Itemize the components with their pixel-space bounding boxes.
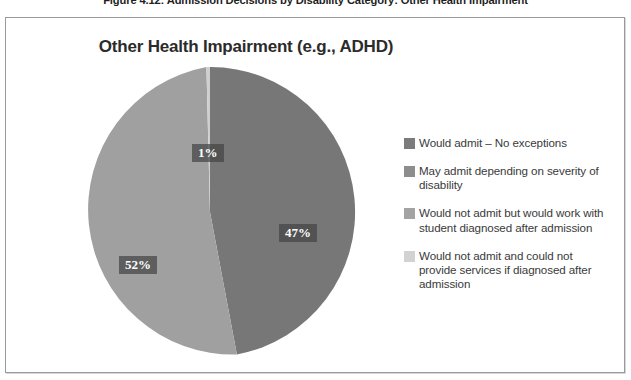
legend-item-may-admit-depending-on-severity[interactable]: May admit depending on severity of disab…: [404, 164, 609, 192]
legend-item-label: Would not admit and could not provide se…: [419, 249, 609, 291]
pie-data-label-1: 1%: [192, 144, 224, 162]
legend-swatch-icon: [404, 138, 415, 149]
legend-item-would-not-admit-and-could-not-provide[interactable]: Would not admit and could not provide se…: [404, 249, 609, 291]
pie-data-label-47: 47%: [279, 224, 317, 242]
legend-item-would-admit-no-exceptions[interactable]: Would admit – No exceptions: [404, 136, 609, 150]
legend-item-would-not-admit-but-would-work[interactable]: Would not admit but would work with stud…: [404, 206, 609, 234]
legend-item-label: Would admit – No exceptions: [419, 136, 567, 150]
chart-panel: Other Health Impairment (e.g., ADHD) 1% …: [5, 17, 625, 373]
legend-swatch-icon: [404, 166, 415, 177]
legend-swatch-icon: [404, 251, 415, 262]
legend-swatch-icon: [404, 208, 415, 219]
pie-chart: 1% 47% 52%: [64, 66, 356, 358]
legend-item-label: Would not admit but would work with stud…: [419, 206, 609, 234]
pie-svg: [64, 66, 356, 358]
pie-slice-would-admit-no-exceptions: [210, 67, 355, 355]
figure-caption: Figure 4.12: Admission Decisions by Disa…: [0, 0, 631, 6]
legend-item-label: May admit depending on severity of disab…: [419, 164, 609, 192]
chart-title: Other Health Impairment (e.g., ADHD): [6, 37, 486, 57]
pie-data-label-52: 52%: [119, 256, 157, 274]
chart-legend: Would admit – No exceptions May admit de…: [404, 136, 609, 305]
